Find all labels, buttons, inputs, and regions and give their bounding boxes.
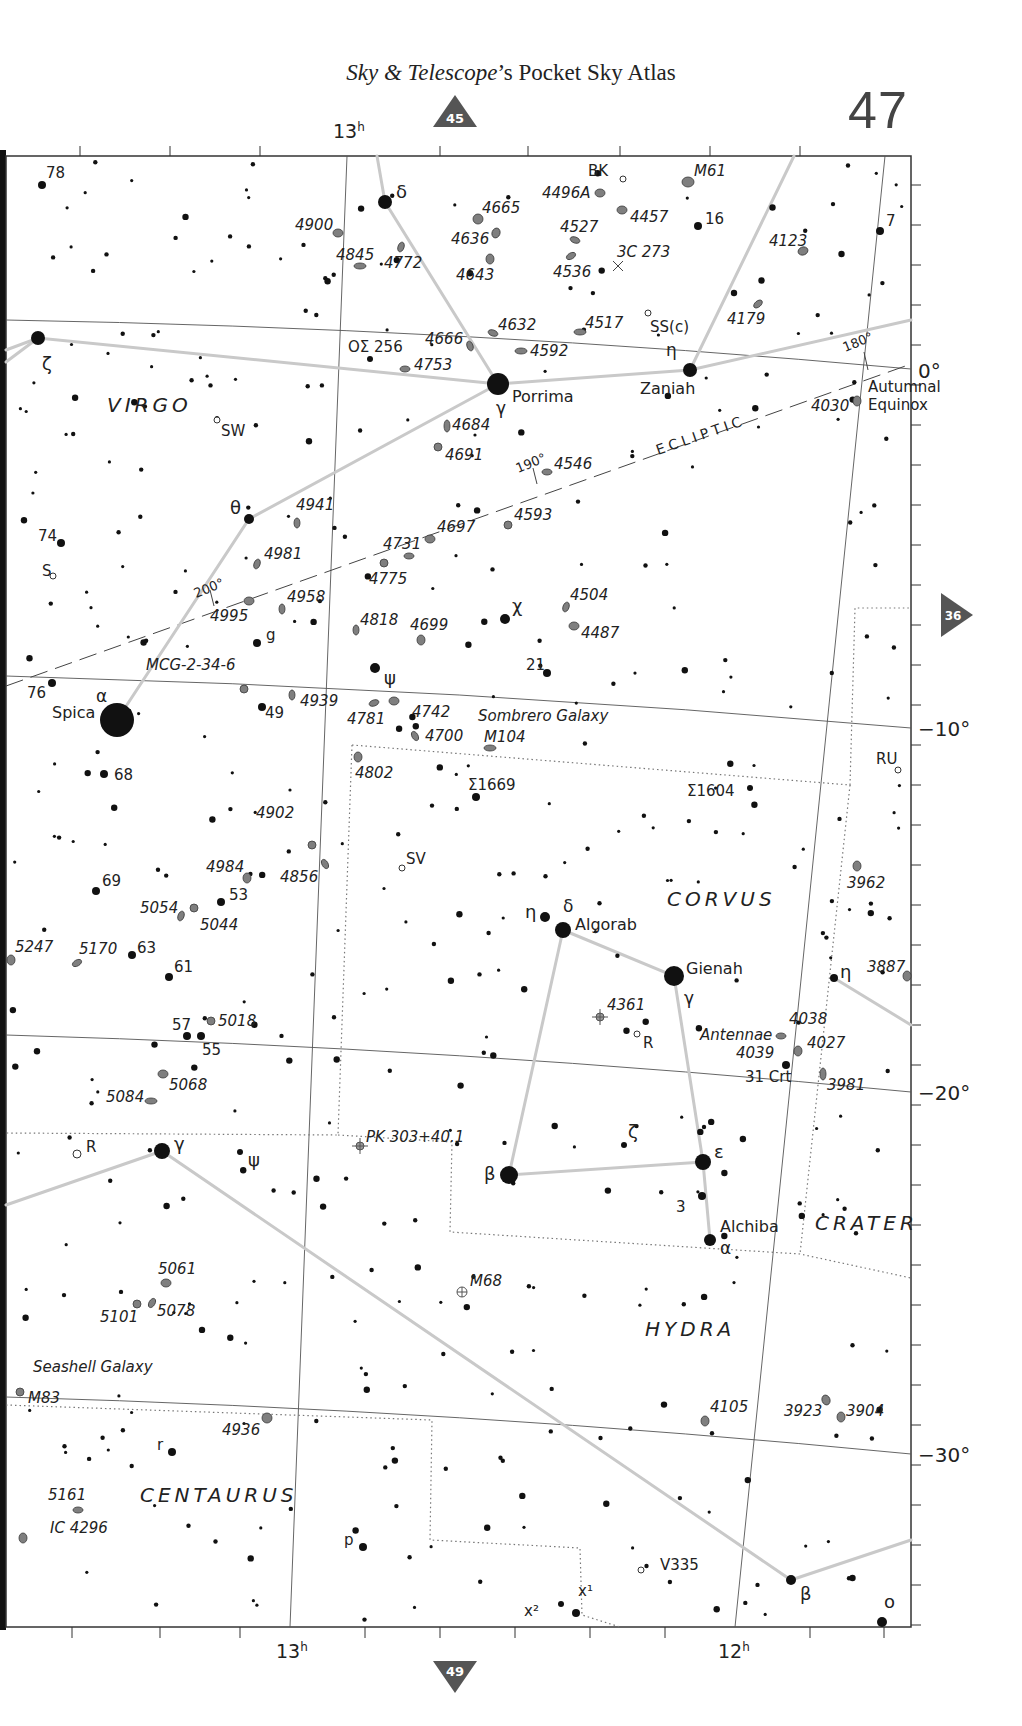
star-greek[interactable]	[378, 195, 392, 209]
star-numbered[interactable]	[197, 1032, 205, 1040]
galaxy-icon[interactable]	[19, 1533, 27, 1543]
galaxy-icon[interactable]	[434, 443, 442, 451]
variable-star[interactable]	[214, 417, 220, 423]
galaxy-icon[interactable]	[417, 635, 425, 645]
galaxy-icon[interactable]	[776, 1033, 786, 1039]
galaxy-icon[interactable]	[252, 558, 261, 569]
star-greek[interactable]	[540, 912, 550, 922]
star-porrima[interactable]	[487, 373, 509, 395]
galaxy-icon[interactable]	[294, 518, 300, 528]
star-numbered[interactable]	[217, 898, 225, 906]
galaxy-icon[interactable]	[243, 873, 251, 883]
star-numbered[interactable]	[168, 1448, 176, 1456]
galaxy-icon[interactable]	[244, 597, 254, 605]
star-numbered[interactable]	[38, 181, 46, 189]
variable-star[interactable]	[638, 1567, 644, 1573]
galaxy-icon[interactable]	[404, 553, 414, 559]
star-greek[interactable]	[786, 1575, 796, 1585]
galaxy-icon[interactable]	[240, 685, 248, 693]
galaxy-icon[interactable]	[569, 235, 580, 244]
star-greek[interactable]	[830, 974, 838, 982]
star-greek[interactable]	[154, 1143, 170, 1159]
galaxy-icon[interactable]	[333, 229, 343, 237]
galaxy-icon[interactable]	[595, 189, 605, 197]
star-numbered[interactable]	[165, 973, 173, 981]
galaxy-icon[interactable]	[147, 1297, 157, 1309]
galaxy-icon[interactable]	[504, 521, 512, 529]
galaxy-icon[interactable]	[353, 625, 359, 635]
star-numbered[interactable]	[572, 1609, 580, 1617]
star-greek[interactable]	[237, 1149, 243, 1155]
galaxy-icon[interactable]	[396, 241, 405, 252]
galaxy-icon[interactable]	[701, 1416, 709, 1426]
galaxy-icon[interactable]	[308, 841, 316, 849]
star-numbered[interactable]	[747, 785, 753, 791]
galaxy-icon[interactable]	[190, 904, 198, 912]
planetary-nebula-icon[interactable]	[592, 1009, 608, 1025]
galaxy-icon[interactable]	[752, 298, 764, 309]
galaxy-icon[interactable]	[289, 690, 295, 700]
star-spica[interactable]	[100, 703, 134, 737]
galaxy-icon[interactable]	[158, 1070, 168, 1078]
star-greek[interactable]	[695, 1154, 711, 1170]
galaxy-icon[interactable]	[542, 469, 552, 475]
galaxy-icon[interactable]	[617, 206, 627, 214]
galaxy-icon[interactable]	[486, 254, 494, 264]
galaxy-icon[interactable]	[794, 1046, 802, 1056]
star-greek[interactable]	[500, 1166, 518, 1184]
galaxy-icon[interactable]	[491, 227, 502, 239]
galaxy-icon[interactable]	[380, 559, 388, 567]
galaxy-icon[interactable]	[389, 697, 399, 705]
quasar-icon[interactable]	[613, 261, 623, 271]
variable-star[interactable]	[399, 865, 405, 871]
star-greek[interactable]	[244, 514, 254, 524]
galaxy-icon[interactable]	[853, 861, 861, 871]
variable-star[interactable]	[73, 1150, 81, 1158]
galaxy-icon[interactable]	[400, 366, 410, 372]
galaxy-icon[interactable]	[444, 420, 450, 432]
galaxy-icon[interactable]	[515, 348, 527, 354]
galaxy-icon[interactable]	[820, 1068, 826, 1080]
star-numbered[interactable]	[558, 1601, 564, 1607]
galaxy-icon[interactable]	[207, 1017, 215, 1025]
galaxy-icon[interactable]	[425, 535, 435, 543]
star-numbered[interactable]	[367, 356, 373, 362]
star-greek[interactable]	[500, 614, 510, 624]
galaxy-icon[interactable]	[837, 1412, 845, 1422]
star-numbered[interactable]	[92, 887, 100, 895]
star-zaniah[interactable]	[683, 363, 697, 377]
star-numbered[interactable]	[253, 639, 261, 647]
star-greek[interactable]	[370, 663, 380, 673]
star-numbered[interactable]	[100, 770, 108, 778]
galaxy-icon[interactable]	[565, 251, 577, 261]
galaxy-icon[interactable]	[262, 1413, 272, 1423]
galaxy-icon[interactable]	[71, 958, 83, 968]
star-numbered[interactable]	[359, 1543, 367, 1551]
galaxy-icon[interactable]	[161, 1279, 171, 1287]
star-numbered[interactable]	[48, 679, 56, 687]
star-numbered[interactable]	[694, 222, 702, 230]
variable-star[interactable]	[645, 310, 651, 316]
galaxy-icon[interactable]	[853, 396, 861, 406]
star-numbered[interactable]	[472, 793, 480, 801]
star-greek[interactable]	[31, 331, 45, 345]
galaxy-icon[interactable]	[279, 604, 285, 614]
star-numbered[interactable]	[128, 951, 136, 959]
galaxy-icon[interactable]	[145, 1098, 157, 1104]
variable-star[interactable]	[620, 176, 626, 182]
galaxy-icon[interactable]	[320, 858, 330, 870]
star-numbered[interactable]	[57, 539, 65, 547]
star-numbered[interactable]	[876, 227, 884, 235]
galaxy-icon[interactable]	[487, 328, 498, 337]
galaxy-icon[interactable]	[368, 698, 379, 707]
galaxy-icon[interactable]	[354, 752, 362, 762]
star-alchiba[interactable]	[704, 1234, 716, 1246]
galaxy-icon[interactable]	[73, 1507, 83, 1513]
galaxy-icon[interactable]	[133, 1300, 141, 1308]
star-greek[interactable]	[877, 1617, 887, 1627]
galaxy-icon[interactable]	[682, 177, 694, 187]
star-greek[interactable]	[621, 1142, 627, 1148]
variable-star[interactable]	[634, 1031, 640, 1037]
galaxy-icon[interactable]	[7, 955, 15, 965]
star-gienah[interactable]	[664, 966, 684, 986]
